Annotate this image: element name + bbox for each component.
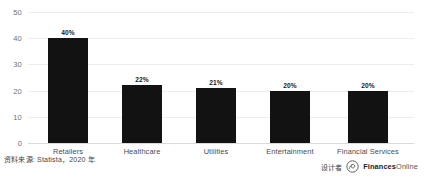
bar-entertainment[interactable] bbox=[270, 91, 310, 143]
bar-utilities[interactable] bbox=[196, 88, 236, 143]
brand-secondary: Online bbox=[396, 162, 418, 171]
source-note: 资料来源: Statista，2020 年 bbox=[4, 154, 95, 164]
bar-value-utilities: 21% bbox=[196, 79, 236, 86]
bar-slot-healthcare: 22% Healthcare bbox=[122, 12, 162, 143]
x-axis-label-financial-services: Financial Services bbox=[320, 147, 416, 156]
y-axis-tick-50: 50 bbox=[13, 8, 22, 17]
bar-value-financial-services: 20% bbox=[348, 82, 388, 89]
bar-retailers[interactable] bbox=[48, 38, 88, 143]
bar-slot-entertainment: 20% Entertainment bbox=[270, 12, 310, 143]
bar-slot-utilities: 21% Utilities bbox=[196, 12, 236, 143]
bar-value-entertainment: 20% bbox=[270, 82, 310, 89]
gridline-0-baseline: 0 bbox=[28, 143, 414, 144]
y-axis-tick-20: 20 bbox=[13, 86, 22, 95]
y-axis-tick-30: 30 bbox=[13, 60, 22, 69]
bar-chart-figure: 50 40 30 20 10 0 40% Retailers 22% Healt… bbox=[0, 0, 426, 181]
bar-value-retailers: 40% bbox=[48, 29, 88, 36]
bar-value-healthcare: 22% bbox=[122, 76, 162, 83]
plot-area: 50 40 30 20 10 0 40% Retailers 22% Healt… bbox=[28, 12, 414, 143]
bar-financial-services[interactable] bbox=[348, 91, 388, 143]
financesonline-wordmark: FinancesOnline bbox=[363, 162, 418, 171]
designer-credit-label: 设计者 bbox=[321, 162, 343, 172]
bar-slot-retailers: 40% Retailers bbox=[48, 12, 88, 143]
brand-primary: Finances bbox=[363, 162, 396, 171]
bar-healthcare[interactable] bbox=[122, 85, 162, 143]
financesonline-logo-icon bbox=[346, 160, 359, 173]
y-axis-tick-40: 40 bbox=[13, 34, 22, 43]
y-axis-tick-10: 10 bbox=[13, 112, 22, 121]
bar-slot-financial-services: 20% Financial Services bbox=[348, 12, 388, 143]
designer-credit: 设计者 FinancesOnline bbox=[321, 160, 418, 173]
